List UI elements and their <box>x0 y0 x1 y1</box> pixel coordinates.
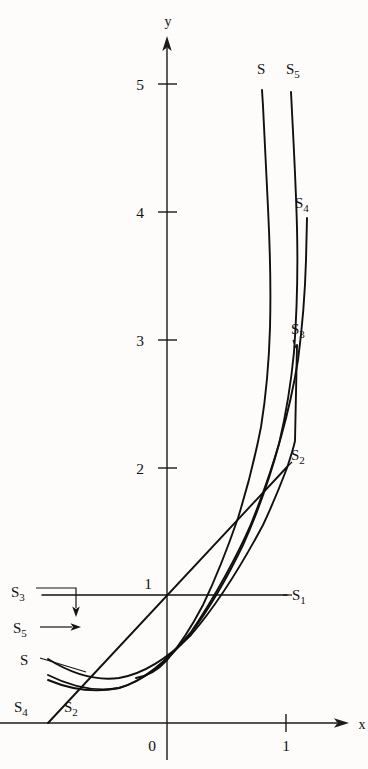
y-tick-label-3: 3 <box>136 332 144 349</box>
y-tick-label-2: 2 <box>136 460 144 477</box>
curve-label-s5-top: S5 <box>286 61 300 80</box>
leader-s3-left <box>36 588 80 617</box>
curve-label-s5-left: S5 <box>13 620 27 639</box>
plot-svg: 5 4 3 2 1 1 0 y x <box>0 0 368 769</box>
y-axis-label: y <box>165 14 172 29</box>
curve-label-s4-left: S4 <box>14 699 28 718</box>
leader-s-left <box>40 658 86 672</box>
curve-s-exponential <box>136 90 270 678</box>
curve-label-s3-right: S3 <box>291 321 305 340</box>
y-tick-label-4: 4 <box>136 204 144 221</box>
curve-label-s-left: S <box>20 652 28 668</box>
curve-s4 <box>48 218 307 690</box>
curve-label-s2-right: S2 <box>291 447 305 466</box>
origin-label: 0 <box>148 737 156 754</box>
x-tick-label-1: 1 <box>282 737 290 754</box>
curve-label-s3-left: S3 <box>11 584 25 603</box>
y-tick-label-5: 5 <box>136 76 144 93</box>
curve-s3 <box>48 345 297 679</box>
figure-canvas: 5 4 3 2 1 1 0 y x <box>0 0 368 769</box>
curve-label-s-top: S <box>257 61 265 77</box>
y-tick-label-1: 1 <box>144 575 152 592</box>
curve-label-s2-left: S2 <box>64 699 78 718</box>
leader-s5-left <box>40 623 81 631</box>
curve-s5 <box>48 92 297 689</box>
x-axis-label: x <box>359 717 366 732</box>
curve-label-s1-right: S1 <box>292 587 306 606</box>
